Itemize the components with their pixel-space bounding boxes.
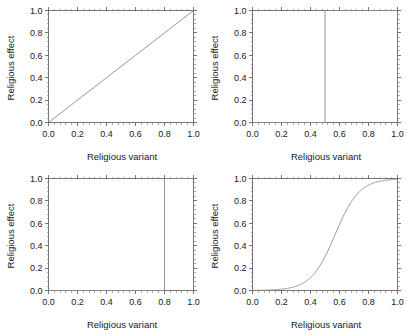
y-tick-label: 1.0 — [30, 6, 43, 16]
panel-bottom-right: 0.00.20.40.60.81.0 0.00.20.40.60.81.0 Re… — [204, 168, 407, 336]
y-tick-label: 0.2 — [30, 263, 43, 273]
y-tick-label: 0.8 — [233, 28, 246, 38]
plot-box — [252, 179, 397, 291]
x-tick-label: 0.6 — [129, 129, 142, 139]
y-tick-label: 0.4 — [30, 241, 43, 251]
panel-bottom-left: 0.00.20.40.60.81.0 0.00.20.40.60.81.0 Re… — [0, 168, 204, 336]
x-axis-title: Religious variant — [290, 151, 361, 162]
data-series-step-eighty — [49, 179, 194, 291]
y-axis-title: Religious effect — [209, 203, 220, 268]
plot-top-right: 0.00.20.40.60.81.0 0.00.20.40.60.81.0 Re… — [204, 0, 407, 168]
data-series-step-half — [252, 11, 397, 123]
x-tick-label: 0.2 — [71, 129, 84, 139]
x-tick-label: 0.2 — [275, 129, 288, 139]
plot-bottom-right: 0.00.20.40.60.81.0 0.00.20.40.60.81.0 Re… — [204, 168, 407, 336]
plot-frame-bottom-left — [45, 175, 197, 294]
y-tick-label: 0.8 — [233, 196, 246, 206]
y-tick-labels-top-left: 0.00.20.40.60.81.0 — [30, 6, 43, 128]
x-tick-label: 0.8 — [158, 297, 171, 307]
x-tick-labels-top-left: 0.00.20.40.60.81.0 — [42, 129, 200, 139]
x-tick-label: 0.6 — [333, 129, 346, 139]
y-tick-labels-top-right: 0.00.20.40.60.81.0 — [233, 6, 246, 128]
y-tick-label: 0.2 — [233, 263, 246, 273]
y-tick-label: 1.0 — [30, 174, 43, 184]
x-tick-label: 0.0 — [42, 297, 55, 307]
x-tick-label: 0.4 — [304, 129, 317, 139]
y-tick-label: 0.8 — [30, 28, 43, 38]
x-tick-label: 0.2 — [71, 297, 84, 307]
y-tick-label: 0.8 — [30, 196, 43, 206]
y-tick-label: 0.0 — [30, 286, 43, 296]
x-tick-labels-bottom-left: 0.00.20.40.60.81.0 — [42, 297, 200, 307]
x-axis-title: Religious variant — [87, 151, 158, 162]
panel-top-right: 0.00.20.40.60.81.0 0.00.20.40.60.81.0 Re… — [204, 0, 407, 168]
plot-frame-bottom-right — [249, 175, 401, 294]
x-tick-label: 1.0 — [391, 297, 404, 307]
x-axis-title: Religious variant — [87, 319, 158, 330]
y-tick-label: 0.6 — [30, 51, 43, 61]
y-tick-labels-bottom-left: 0.00.20.40.60.81.0 — [30, 174, 43, 296]
y-tick-label: 0.0 — [233, 118, 246, 128]
x-tick-label: 0.4 — [100, 129, 113, 139]
x-tick-label: 1.0 — [187, 297, 200, 307]
y-axis-title: Religious effect — [5, 35, 16, 100]
data-series-sigmoid — [252, 179, 397, 290]
y-tick-label: 0.4 — [233, 241, 246, 251]
y-tick-label: 0.2 — [233, 95, 246, 105]
panel-top-left: 0.00.20.40.60.81.0 0.00.20.40.60.81.0 Re… — [0, 0, 204, 168]
plot-top-left: 0.00.20.40.60.81.0 0.00.20.40.60.81.0 Re… — [0, 0, 204, 168]
y-tick-label: 0.6 — [233, 51, 246, 61]
x-tick-label: 0.0 — [42, 129, 55, 139]
x-tick-labels-bottom-right: 0.00.20.40.60.81.0 — [246, 297, 404, 307]
y-tick-labels-bottom-right: 0.00.20.40.60.81.0 — [233, 174, 246, 296]
x-tick-label: 0.2 — [275, 297, 288, 307]
y-tick-label: 0.2 — [30, 95, 43, 105]
y-tick-label: 1.0 — [233, 6, 246, 16]
x-tick-label: 1.0 — [187, 129, 200, 139]
x-tick-label: 0.8 — [362, 297, 375, 307]
x-tick-label: 0.6 — [333, 297, 346, 307]
y-axis-title: Religious effect — [5, 203, 16, 268]
x-tick-label: 0.6 — [129, 297, 142, 307]
x-tick-labels-top-right: 0.00.20.40.60.81.0 — [246, 129, 404, 139]
x-tick-label: 0.8 — [362, 129, 375, 139]
y-tick-label: 0.4 — [30, 73, 43, 83]
x-tick-label: 0.8 — [158, 129, 171, 139]
y-axis-title: Religious effect — [209, 35, 220, 100]
x-tick-label: 0.0 — [246, 129, 259, 139]
y-tick-label: 0.6 — [30, 219, 43, 229]
x-tick-label: 1.0 — [391, 129, 404, 139]
figure-grid: 0.00.20.40.60.81.0 0.00.20.40.60.81.0 Re… — [0, 0, 407, 336]
y-tick-label: 0.6 — [233, 219, 246, 229]
x-tick-label: 0.0 — [246, 297, 259, 307]
y-tick-label: 0.0 — [233, 286, 246, 296]
x-axis-title: Religious variant — [290, 319, 361, 330]
y-tick-label: 1.0 — [233, 174, 246, 184]
y-tick-label: 0.0 — [30, 118, 43, 128]
x-tick-label: 0.4 — [304, 297, 317, 307]
data-series-linear — [49, 11, 194, 123]
y-tick-label: 0.4 — [233, 73, 246, 83]
plot-box — [49, 179, 194, 291]
x-tick-label: 0.4 — [100, 297, 113, 307]
plot-bottom-left: 0.00.20.40.60.81.0 0.00.20.40.60.81.0 Re… — [0, 168, 204, 336]
